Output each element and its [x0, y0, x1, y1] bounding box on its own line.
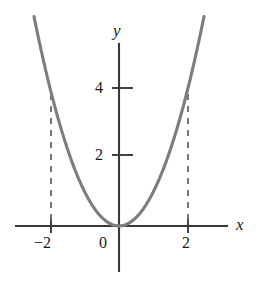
x-tick-label-2: 2 [182, 235, 190, 251]
y-axis-label: y [113, 22, 121, 39]
x-axis-label: x [236, 216, 244, 233]
origin-label: 0 [99, 235, 107, 251]
y-tick-label-4: 4 [95, 80, 103, 96]
x-tick-label-neg2: −2 [34, 235, 51, 251]
y-tick-label-2: 2 [95, 147, 103, 163]
parabola-figure: y x 4 2 −2 2 0 [0, 0, 262, 294]
